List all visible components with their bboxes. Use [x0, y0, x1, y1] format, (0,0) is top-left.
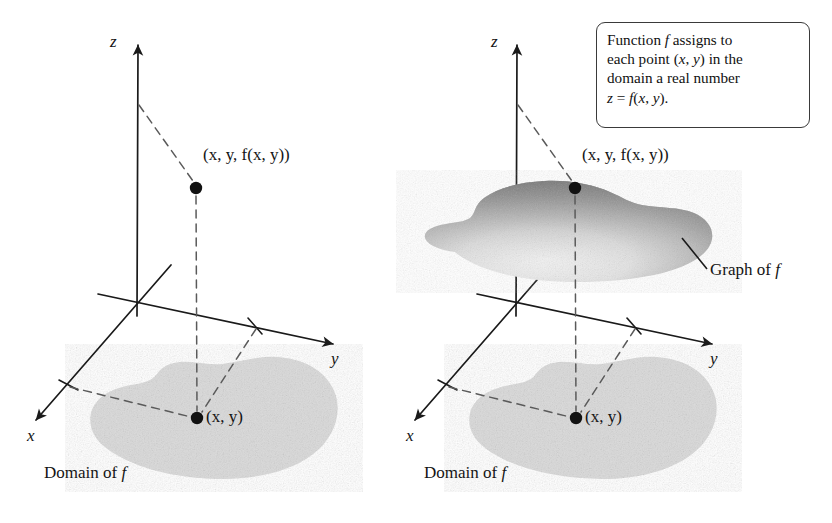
right-surface-point-label: (x, y, f(x, y)) [582, 146, 669, 163]
callout-box: Function f assigns to each point (x, y) … [596, 22, 810, 128]
left-x-axis-label: x [27, 427, 35, 444]
callout-line4-args-b: ). [659, 89, 668, 106]
callout-line-2: each point (x, y) in the [607, 49, 800, 68]
callout-line4-comma: , [645, 89, 653, 106]
left-surface-point-dot [190, 182, 202, 194]
left-y-axis-label: y [331, 350, 339, 367]
right-z-axis-label: z [491, 33, 498, 50]
callout-line4-eq: = [613, 89, 629, 106]
right-domain-point-text: (x, y) [585, 407, 622, 426]
right-domain-caption: Domain of f [424, 464, 506, 481]
callout-line-1: Function f assigns to [607, 30, 800, 49]
right-dash-z-to-point [518, 105, 572, 181]
right-dash-vertical-drop [575, 196, 576, 411]
right-y-axis-label: y [710, 350, 718, 367]
left-domain-point-text: (x, y) [206, 407, 243, 426]
right-surface-point-dot [569, 182, 581, 194]
right-domain-point-dot [570, 412, 582, 424]
callout-line2-b: ) in the [700, 50, 743, 67]
left-domain-caption-text: Domain of [44, 463, 121, 482]
graph-surface [425, 181, 713, 282]
left-domain-caption: Domain of f [44, 464, 126, 481]
left-z-axis [137, 45, 138, 316]
left-dash-vertical-drop [196, 196, 197, 411]
left-domain-caption-f: f [121, 463, 126, 482]
left-surface-point-label: (x, y, f(x, y)) [203, 146, 290, 163]
right-y-axis [477, 294, 712, 344]
graph-of-f-caption-text: Graph of [710, 260, 775, 279]
left-domain-point-dot [191, 412, 203, 424]
callout-line-4: z = f(x, y). [607, 88, 800, 107]
graph-of-f-caption-f: f [775, 260, 780, 279]
right-domain-caption-text: Domain of [424, 463, 501, 482]
figure-canvas: z y x (x, y, f(x, y)) (x, y) Domain of f… [0, 0, 832, 523]
graph-of-f-caption: Graph of f [710, 261, 780, 278]
callout-line1-a: Function [607, 31, 665, 48]
left-z-axis-label: z [110, 33, 117, 50]
right-domain-caption-f: f [501, 463, 506, 482]
callout-line2-a: each point ( [607, 50, 679, 67]
right-surface-point-text: (x, y, f(x, y)) [582, 145, 669, 164]
callout-line2-comma: , [685, 50, 693, 67]
left-panel [36, 45, 338, 479]
left-dash-z-to-point [139, 105, 193, 181]
callout-line2-y: y [693, 50, 700, 67]
callout-line-3: domain a real number [607, 68, 800, 87]
right-x-axis-label: x [406, 427, 414, 444]
left-domain-point-label: (x, y) [206, 408, 243, 425]
left-y-axis [98, 294, 333, 344]
left-surface-point-text: (x, y, f(x, y)) [203, 145, 290, 164]
callout-line1-b: assigns to [669, 31, 732, 48]
right-domain-point-label: (x, y) [585, 408, 622, 425]
